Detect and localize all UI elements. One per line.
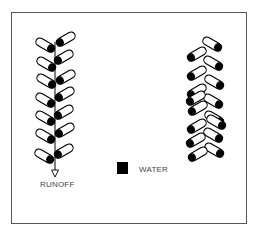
water-legend-swatch: [117, 162, 128, 174]
water-legend-label: WATER: [139, 165, 168, 174]
left-plant: [33, 31, 76, 177]
runoff-label: RUNOFF: [40, 180, 75, 189]
right-plant: [184, 36, 227, 163]
plant-diagram: [0, 0, 255, 230]
runoff-arrow-icon: [52, 170, 59, 177]
